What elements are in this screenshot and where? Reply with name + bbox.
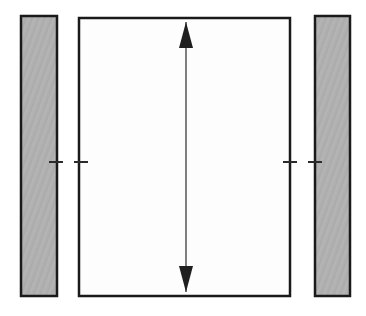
center-panel-outline (79, 18, 290, 296)
left-block (21, 16, 57, 296)
center-panel (79, 18, 290, 296)
left-block-texture-overlay (21, 16, 57, 296)
right-block (315, 16, 350, 296)
right-block-texture-overlay (315, 16, 350, 296)
diagram-canvas (0, 0, 366, 316)
technical-diagram (0, 0, 366, 316)
